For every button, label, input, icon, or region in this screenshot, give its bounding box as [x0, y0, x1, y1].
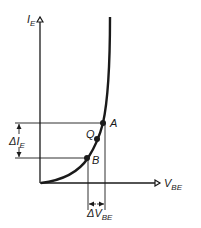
svg-text:VBE: VBE — [164, 177, 183, 192]
svg-text:IE: IE — [27, 13, 36, 28]
delta-ie-dimension: ΔIE — [8, 124, 25, 157]
svg-text:ΔVBE: ΔVBE — [86, 207, 113, 222]
svg-text:Q: Q — [86, 128, 95, 140]
delta-vbe-dimension: ΔVBE — [86, 204, 113, 222]
point-q: Q — [86, 128, 100, 142]
point-b: B — [84, 154, 99, 166]
x-axis-label: VBE — [164, 177, 183, 192]
ie-vbe-diagram: IE VBE ΔIE ΔVBE A Q B — [0, 0, 201, 228]
svg-text:B: B — [92, 154, 99, 166]
y-axis-label: IE — [27, 13, 36, 28]
svg-text:A: A — [109, 117, 117, 129]
svg-text:ΔIE: ΔIE — [8, 135, 25, 150]
